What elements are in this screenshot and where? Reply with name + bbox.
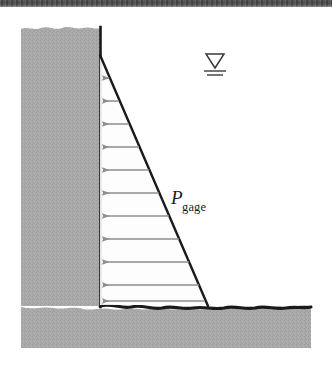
figure-container: Pgage <box>0 0 332 365</box>
wall-fill <box>21 27 100 306</box>
diagram-canvas <box>0 0 332 365</box>
bed-line <box>100 305 311 308</box>
pressure-symbol: P <box>171 187 183 208</box>
ground-fill <box>21 305 311 348</box>
retaining-wall <box>21 27 101 307</box>
water-surface-symbol <box>204 54 226 75</box>
ground-bed <box>21 305 311 348</box>
pressure-label: Pgage <box>171 188 207 211</box>
water-surface-triangle-icon <box>206 54 224 68</box>
pressure-subscript: gage <box>182 200 206 214</box>
pressure-distribution-triangle <box>100 55 208 306</box>
